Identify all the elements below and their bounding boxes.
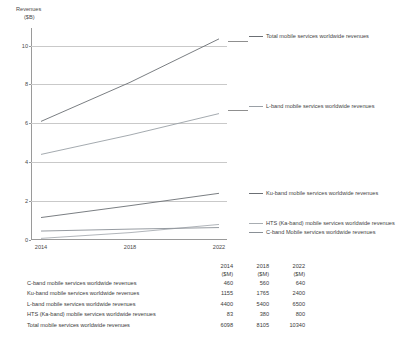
table-cell-v2022: 2400 [269,288,305,298]
y-axis-title-line1: Revenues [16,6,41,14]
y-tick-label-8: 8 [14,81,28,87]
y-tick-label-0: 0 [14,237,28,243]
table-cell-v2018: 380 [233,309,269,319]
table-header-row: 2014($M)2018($M)2022($M) [27,262,305,278]
legend-label-lband: L-band mobile services worldwide revenue… [266,103,375,110]
table-row: Total mobile services worldwide revenues… [27,320,305,330]
y-tick-label-4: 4 [14,159,28,165]
legend-swatch-lband [249,106,263,107]
legend-swatch-hts [249,223,263,224]
table-row: HTS (Ka-band) mobile services worldwide … [27,309,305,319]
table-row: L-band mobile services worldwide revenue… [27,299,305,309]
data-table: 2014($M)2018($M)2022($M) C-band mobile s… [27,262,305,330]
legend-label-total: Total mobile services worldwide revenues [266,33,369,40]
table-header-unit: ($M) [233,271,269,279]
legend-swatch-total [249,36,263,37]
legend-item-kuband[interactable]: Ku-band mobile services worldwide revenu… [249,190,378,197]
y-tick-label-2: 2 [14,198,28,204]
legend-item-hts[interactable]: HTS (Ka-band) mobile services worldwide … [249,220,395,227]
series-line-1 [41,114,219,155]
table-cell-v2018: 560 [233,278,269,288]
table-cell-label: Ku-band mobile services worldwide revenu… [27,288,197,298]
legend-label-hts: HTS (Ka-band) mobile services worldwide … [266,220,395,227]
table-header: 2014($M)2018($M)2022($M) [27,262,305,278]
table-header-2018: 2018($M) [233,262,269,278]
x-tick-label-2014: 2014 [26,244,56,250]
series-line-4 [41,228,219,232]
table-header-label [27,262,197,278]
table-cell-label: Total mobile services worldwide revenues [27,320,197,330]
leader-line-total [228,41,248,42]
legend-swatch-cband [249,232,263,233]
leader-line-lband [228,110,248,111]
legend-item-cband[interactable]: C-band Mobile services worldwide revenue… [249,229,375,236]
table-row: C-band mobile services worldwide revenue… [27,278,305,288]
table-header-year: 2018 [233,263,269,271]
table-cell-v2018: 1765 [233,288,269,298]
table-cell-v2014: 4400 [197,299,233,309]
y-axis-title-line2: ($B) [24,14,35,22]
table-cell-v2014: 460 [197,278,233,288]
y-tick-mark-0 [29,240,32,241]
series-line-0 [41,39,219,122]
series-line-2 [41,193,219,217]
legend-label-kuband: Ku-band mobile services worldwide revenu… [266,190,378,197]
legend-swatch-kuband [249,193,263,194]
table-cell-v2022: 640 [269,278,305,288]
table-header-unit: ($M) [269,271,305,279]
table-cell-v2014: 6098 [197,320,233,330]
plot-frame: 0246810 201420182022 [31,28,227,240]
table-header-year: 2022 [269,263,305,271]
table-cell-label: HTS (Ka-band) mobile services worldwide … [27,309,197,319]
table-header-unit: ($M) [197,271,233,279]
series-line-3 [41,224,219,238]
plot-area: 0246810 201420182022 [31,28,227,240]
table-header-year: 2014 [197,263,233,271]
legend-item-total[interactable]: Total mobile services worldwide revenues [249,33,369,40]
table-cell-v2022: 6500 [269,299,305,309]
table-body: C-band mobile services worldwide revenue… [27,278,305,330]
chart-page: Revenues ($B) 0246810 201420182022 Total… [0,0,417,355]
table-cell-v2014: 83 [197,309,233,319]
y-tick-label-10: 10 [14,43,28,49]
legend-label-cband: C-band Mobile services worldwide revenue… [266,229,375,236]
x-tick-label-2022: 2022 [204,244,234,250]
table-cell-v2014: 1155 [197,288,233,298]
table-header-2014: 2014($M) [197,262,233,278]
table-cell-v2022: 10340 [269,320,305,330]
table-cell-label: L-band mobile services worldwide revenue… [27,299,197,309]
series-lines [31,28,227,240]
y-tick-label-6: 6 [14,120,28,126]
table-cell-v2018: 5400 [233,299,269,309]
legend-item-lband[interactable]: L-band mobile services worldwide revenue… [249,103,375,110]
table-cell-label: C-band mobile services worldwide revenue… [27,278,197,288]
table-cell-v2018: 8105 [233,320,269,330]
table-cell-v2022: 800 [269,309,305,319]
table-header-2022: 2022($M) [269,262,305,278]
table-row: Ku-band mobile services worldwide revenu… [27,288,305,298]
x-tick-label-2018: 2018 [115,244,145,250]
